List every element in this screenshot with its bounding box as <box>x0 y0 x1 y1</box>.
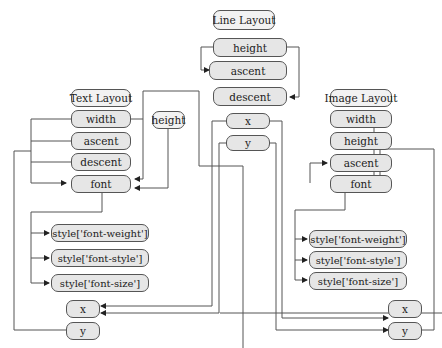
line-ascent-node: ascent <box>209 61 287 80</box>
text-height-node: height <box>152 111 185 129</box>
right-style-font-size: style['font-size'] <box>309 272 407 290</box>
right-style-font-style: style['font-style'] <box>309 251 407 269</box>
right-x-node: x <box>388 300 422 318</box>
left-style-font-style: style['font-style'] <box>51 249 149 267</box>
left-style-font-weight: style['font-weight'] <box>51 224 149 242</box>
image-height-node: height <box>330 132 392 150</box>
center-x-node: x <box>226 113 270 129</box>
right-style-font-weight: style['font-weight'] <box>309 230 407 248</box>
right-y-node: y <box>388 322 422 340</box>
text-ascent-node: ascent <box>71 132 131 150</box>
center-y-node: y <box>226 135 270 151</box>
line-descent-node: descent <box>213 87 287 106</box>
left-y-node: y <box>66 322 100 340</box>
left-style-font-size: style['font-size'] <box>51 274 149 292</box>
left-x-node: x <box>66 300 100 318</box>
text-descent-node: descent <box>71 153 131 171</box>
image-ascent-node: ascent <box>330 154 392 172</box>
text-width-node: width <box>71 110 131 128</box>
line-layout-title: Line Layout <box>213 10 275 30</box>
text-layout-title: Text Layout <box>71 89 131 107</box>
image-layout-title: Image Layout <box>330 89 392 107</box>
layout-diagram: Line Layout height ascent descent Text L… <box>0 0 442 348</box>
image-font-node: font <box>330 175 392 193</box>
line-height-node: height <box>213 38 287 57</box>
text-font-node: font <box>71 175 131 193</box>
image-width-node: width <box>330 110 392 128</box>
